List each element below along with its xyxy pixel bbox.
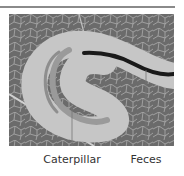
feces-label: Feces <box>130 153 161 166</box>
leaf-miner-photo <box>9 14 174 146</box>
caterpillar-label: Caterpillar <box>43 153 100 166</box>
top-rule <box>0 6 175 8</box>
